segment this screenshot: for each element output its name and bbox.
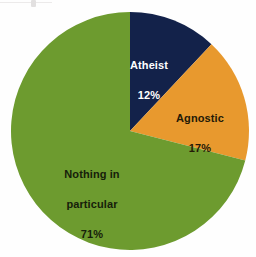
slice-label-nothing-line1: Nothing in [46, 168, 138, 180]
slice-label-nothing-line2: particular [46, 198, 138, 210]
slice-label-nothing-in-particular: Nothing in particular 71% [46, 150, 138, 257]
slice-label-agnostic-name: Agnostic [160, 112, 240, 124]
pie-chart-figure: Atheist 12% Agnostic 17% Nothing in part… [0, 0, 256, 257]
slice-label-nothing-value: 71% [46, 228, 138, 240]
slice-label-agnostic-value: 17% [160, 142, 240, 154]
slice-label-agnostic: Agnostic 17% [160, 94, 240, 172]
slice-label-atheist-name: Atheist [113, 59, 185, 71]
